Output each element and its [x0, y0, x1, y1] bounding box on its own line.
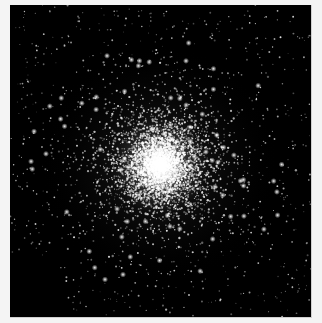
starfield-canvas	[10, 5, 311, 317]
star-cluster-photo	[10, 5, 312, 318]
